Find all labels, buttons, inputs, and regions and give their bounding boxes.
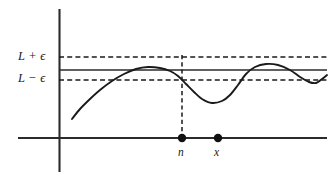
function-curve [72,64,327,119]
point-label-x: x [214,147,219,159]
marker-dot-x [214,134,222,142]
diagram-canvas [0,0,331,183]
upper-bound-label: L + ϵ [18,50,45,63]
marker-dot-n [178,134,186,142]
point-label-n: n [178,147,184,159]
lower-bound-label: L − ϵ [18,72,45,85]
limit-diagram: L + ϵ L − ϵ n x [0,0,331,183]
